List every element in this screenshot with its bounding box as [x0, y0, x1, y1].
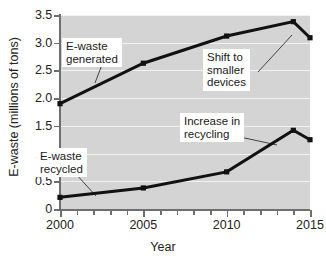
annotation-shift-to-smaller-devices: Shift to smaller devices [203, 49, 250, 91]
annotation-e-waste-generated: E-waste generated [62, 38, 122, 67]
data-point-marker [224, 169, 229, 174]
data-point-marker [291, 19, 296, 24]
data-point-marker [141, 61, 146, 66]
data-point-marker [224, 33, 229, 38]
data-point-marker [307, 35, 312, 40]
y-axis-title: E-waste (millions of tons) [7, 7, 21, 207]
data-series-layer [0, 0, 326, 264]
data-point-marker [57, 195, 62, 200]
data-point-marker [307, 137, 312, 142]
data-point-marker [141, 185, 146, 190]
chart-figure: 00.51.01.52.02.53.03.5 2000200520102015 … [0, 0, 326, 264]
x-axis-title: Year [0, 240, 326, 254]
leader-shift [258, 35, 292, 72]
annotation-e-waste-recycled: E-waste recycled [36, 148, 87, 177]
data-point-marker [57, 101, 62, 106]
data-point-marker [291, 128, 296, 133]
annotation-increase-in-recycling: Increase in recycling [180, 113, 244, 142]
